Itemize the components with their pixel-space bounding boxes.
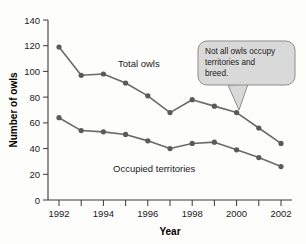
data-point xyxy=(79,73,84,78)
data-point xyxy=(256,125,261,130)
y-tick-label: 20 xyxy=(29,169,40,180)
data-point xyxy=(123,80,128,85)
callout-line: territories and xyxy=(205,58,256,67)
y-tick-label: 40 xyxy=(29,143,40,154)
data-point xyxy=(234,147,239,152)
y-tick-label: 0 xyxy=(35,195,40,206)
x-axis-ticks xyxy=(59,200,281,206)
y-axis-title: Number of owls xyxy=(8,72,19,147)
y-tick-label: 140 xyxy=(24,15,40,26)
y-tick-label: 120 xyxy=(24,40,40,51)
data-point xyxy=(212,140,217,145)
data-point xyxy=(123,132,128,137)
data-point xyxy=(278,141,283,146)
data-point xyxy=(79,128,84,133)
data-point xyxy=(190,97,195,102)
y-tick-label: 100 xyxy=(24,66,40,77)
data-point xyxy=(56,44,61,49)
line-chart-canvas: 0 20 40 60 80 100 120 140 1992 1994 1 xyxy=(0,0,306,244)
data-point xyxy=(56,115,61,120)
y-axis-ticks xyxy=(43,20,48,200)
data-point xyxy=(145,138,150,143)
x-tick-label: 1992 xyxy=(48,208,69,219)
callout-annotation: Not all owls occupy territories and bree… xyxy=(198,41,295,110)
y-tick-label: 60 xyxy=(29,117,40,128)
x-axis-title: Year xyxy=(159,226,180,237)
data-point xyxy=(167,146,172,151)
y-axis-tick-labels: 0 20 40 60 80 100 120 140 xyxy=(24,15,40,206)
series-occupied-territories xyxy=(56,115,283,169)
data-point xyxy=(278,164,283,169)
series-label-occupied-territories: Occupied territories xyxy=(113,163,196,174)
data-point xyxy=(212,104,217,109)
x-axis-tick-labels: 1992 1994 1996 1998 2000 2002 xyxy=(48,208,291,219)
callout-line: breed. xyxy=(205,69,228,78)
data-point xyxy=(256,155,261,160)
callout-line: Not all owls occupy xyxy=(205,47,276,56)
data-point xyxy=(101,129,106,134)
data-point xyxy=(101,71,106,76)
chart-figure: 0 20 40 60 80 100 120 140 1992 1994 1 xyxy=(0,0,306,244)
callout-tail xyxy=(228,84,248,110)
series-label-total-owls: Total owls xyxy=(118,58,160,69)
series-line xyxy=(59,118,281,167)
x-tick-label: 2002 xyxy=(270,208,291,219)
x-tick-label: 1994 xyxy=(93,208,114,219)
x-tick-label: 1996 xyxy=(137,208,158,219)
data-point xyxy=(190,141,195,146)
data-point xyxy=(234,110,239,115)
data-point xyxy=(145,93,150,98)
x-tick-label: 2000 xyxy=(226,208,247,219)
x-tick-label: 1998 xyxy=(182,208,203,219)
y-tick-label: 80 xyxy=(29,92,40,103)
data-point xyxy=(167,110,172,115)
